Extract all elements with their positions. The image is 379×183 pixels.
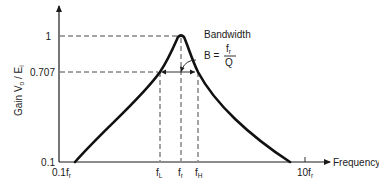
y-tick-0707: 0.707 xyxy=(30,67,55,78)
y-axis-label: Gain Vo / Ei xyxy=(13,65,25,116)
resonance-diagram: 1 0.707 0.1 Gain Vo / Ei 0.1fr fL fr fH … xyxy=(0,0,379,183)
x-tick-fh: fH xyxy=(195,167,203,179)
x-tick-01fr: 0.1fr xyxy=(52,167,72,179)
svg-text:Gain Vo / Ei: Gain Vo / Ei xyxy=(13,65,25,116)
x-axis-label: Frequency xyxy=(333,157,379,168)
bandwidth-denominator: Q xyxy=(225,57,233,68)
resonance-curve xyxy=(75,36,290,163)
x-tick-fl: fL xyxy=(156,167,163,179)
bandwidth-numerator: fr xyxy=(226,43,232,55)
y-tick-1: 1 xyxy=(45,31,51,42)
x-tick-10fr: 10fr xyxy=(297,167,314,179)
bandwidth-formula-lhs: B = xyxy=(204,50,219,61)
bandwidth-title: Bandwidth xyxy=(204,29,251,40)
x-tick-fr: fr xyxy=(178,167,184,179)
